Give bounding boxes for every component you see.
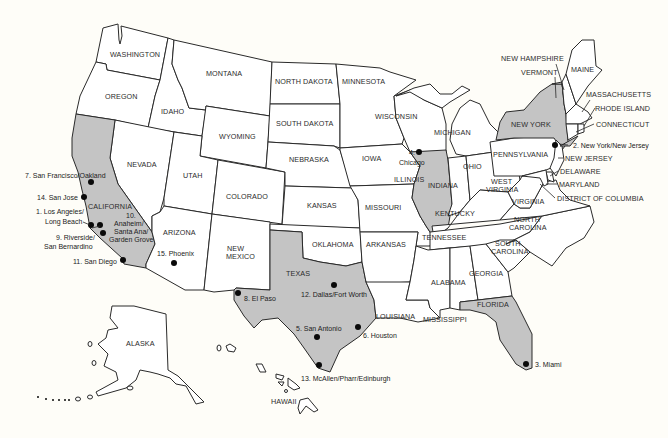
city-label-4b: Chicago: [399, 159, 425, 167]
label-alabama: ALABAMA: [431, 278, 466, 287]
label-rhode-island: RHODE ISLAND: [595, 104, 650, 113]
city-label-2: 2. New York/New Jersey: [573, 142, 649, 150]
label-colorado: COLORADO: [226, 192, 268, 201]
city-label-10a: 10.: [126, 212, 136, 219]
label-north-dakota: NORTH DAKOTA: [275, 77, 333, 86]
us-map: WASHINGTON OREGON IDAHO MONTANA WYOMING …: [0, 0, 668, 438]
label-nebraska: NEBRASKA: [289, 155, 329, 164]
label-oklahoma: OKLAHOMA: [312, 240, 354, 249]
city-label-1b: Long Beach: [45, 218, 82, 226]
city-label-14: 14. San Jose: [37, 194, 78, 201]
dot-miami: [523, 361, 529, 367]
label-indiana: INDIANA: [428, 181, 458, 190]
label-nevada: NEVADA: [127, 160, 157, 169]
city-label-1a: 1. Los Angeles/: [36, 208, 84, 216]
state-alaska: [96, 306, 204, 404]
label-minnesota: MINNESOTA: [342, 77, 385, 86]
label-wyoming: WYOMING: [219, 132, 256, 141]
label-maine: MAINE: [571, 65, 594, 74]
label-hawaii: HAWAII: [271, 397, 297, 406]
label-montana: MONTANA: [206, 69, 242, 78]
label-oregon: OREGON: [105, 92, 138, 101]
dot-san-francisco: [88, 179, 94, 185]
city-label-10d: Garden Grove: [109, 236, 153, 243]
dot-anaheim: [100, 230, 106, 236]
dot-los-angeles: [88, 222, 94, 228]
label-new-mexico-2: MEXICO: [226, 252, 255, 261]
label-california: CALIFORNIA: [88, 202, 132, 211]
dot-houston: [355, 324, 361, 330]
label-utah: UTAH: [183, 171, 202, 180]
dot-dallas: [331, 282, 337, 288]
city-label-15: 15. Phoenix: [157, 250, 194, 257]
dot-mcallen: [316, 362, 322, 368]
dot-riverside: [97, 222, 103, 228]
city-label-13: 13. McAllen/Pharr/Edinburgh: [301, 375, 391, 383]
city-label-6: 6. Houston: [363, 332, 397, 339]
label-michigan: MICHIGAN: [434, 128, 471, 137]
label-florida: FLORIDA: [477, 300, 509, 309]
city-label-10b: Anaheim/: [114, 220, 144, 227]
city-label-4a: 4.: [409, 149, 415, 156]
city-label-9a: 9. Riverside/: [56, 234, 95, 241]
label-georgia: GEORGIA: [469, 269, 503, 278]
label-vermont: VERMONT: [521, 68, 558, 77]
label-massachusetts: MASSACHUSETTS: [586, 90, 651, 99]
dot-san-diego: [120, 257, 126, 263]
label-new-hampshire: NEW HAMPSHIRE: [501, 54, 564, 63]
label-wisconsin: WISCONSIN: [375, 112, 417, 121]
label-louisiana: LOUISIANA: [376, 312, 415, 321]
city-label-10c: Santa Ana/: [114, 228, 148, 235]
label-dc: DISTRICT OF COLUMBIA: [557, 194, 644, 203]
label-alaska: ALASKA: [126, 339, 155, 348]
label-new-jersey: NEW JERSEY: [565, 154, 613, 163]
label-arkansas: ARKANSAS: [366, 240, 406, 249]
label-west-virginia-2: VIRGINIA: [486, 185, 518, 194]
city-label-9b: San Bernardino: [44, 243, 93, 250]
label-idaho: IDAHO: [161, 107, 185, 116]
dot-el-paso: [235, 290, 241, 296]
city-label-8: 8. El Paso: [244, 295, 276, 302]
label-south-dakota: SOUTH DAKOTA: [276, 119, 333, 128]
label-washington: WASHINGTON: [110, 50, 160, 59]
label-south-carolina-2: CAROLINA: [491, 247, 529, 256]
city-label-11: 11. San Diego: [73, 258, 117, 266]
label-connecticut: CONNECTICUT: [596, 120, 650, 129]
label-new-york: NEW YORK: [511, 120, 551, 129]
label-kansas: KANSAS: [307, 201, 337, 210]
label-tennessee: TENNESSEE: [422, 233, 467, 242]
label-illinois: ILLINOIS: [394, 175, 424, 184]
label-north-carolina-2: CAROLINA: [509, 223, 547, 232]
dot-san-jose: [81, 194, 87, 200]
dot-new-york: [552, 142, 558, 148]
dot-phoenix: [171, 260, 177, 266]
label-arizona: ARIZONA: [163, 228, 196, 237]
label-pennsylvania: PENNSYLVANIA: [493, 150, 548, 159]
dot-san-antonio: [314, 334, 320, 340]
city-label-3: 3. Miami: [535, 361, 562, 368]
label-maryland: MARYLAND: [559, 180, 600, 189]
label-texas: TEXAS: [286, 269, 310, 278]
city-label-12: 12. Dallas/Fort Worth: [301, 291, 367, 298]
label-iowa: IOWA: [362, 154, 381, 163]
dot-chicago: [416, 149, 422, 155]
label-kentucky: KENTUCKY: [435, 209, 475, 218]
state-arizona: [146, 206, 212, 290]
city-label-7: 7. San Francisco/Oakland: [25, 172, 106, 179]
label-virginia: VIRGINIA: [512, 197, 544, 206]
city-label-5: 5. San Antonio: [296, 325, 342, 332]
label-ohio: OHIO: [463, 162, 482, 171]
label-mississippi: MISSISSIPPI: [423, 315, 467, 324]
label-missouri: MISSOURI: [365, 203, 401, 212]
label-delaware: DELAWARE: [560, 167, 601, 176]
